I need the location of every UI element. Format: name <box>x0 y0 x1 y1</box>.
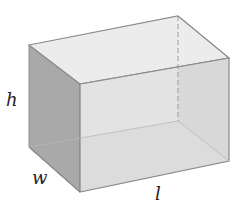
length-label: l <box>155 183 161 204</box>
width-label: w <box>32 167 48 188</box>
height-label: h <box>6 89 18 110</box>
rectangular-prism-diagram: h w l <box>0 0 236 206</box>
